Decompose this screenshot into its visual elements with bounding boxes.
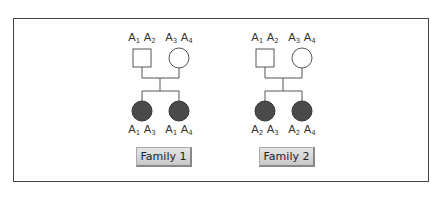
genotype-label: A2 A3 [251,123,279,137]
family-1-pedigree: A1 A2 A3 A4 A1 A3 A1 A4 Family 1 [129,19,239,183]
family-2-button[interactable]: Family 2 [259,147,315,167]
genotype-label: A2 A4 [288,123,316,137]
father-square-icon [256,49,274,67]
genotype-label: A3 A4 [288,31,316,45]
genotype-label: A3 A4 [165,31,193,45]
genotype-label: A1 A4 [165,123,193,137]
family-2-pedigree: A1 A2 A3 A4 A2 A3 A2 A4 Family 2 [252,19,362,183]
child-affected-icon [292,101,312,121]
genotype-label: A1 A2 [251,31,279,45]
diagram-frame: A1 A2 A3 A4 A1 A3 A1 A4 Family 1 A1 A2 A… [13,18,429,182]
father-square-icon [133,49,151,67]
family-1-button[interactable]: Family 1 [136,147,192,167]
child-affected-icon [255,101,275,121]
genotype-label: A1 A3 [128,123,156,137]
genotype-label: A1 A2 [128,31,156,45]
mother-circle-icon [292,48,312,68]
child-affected-icon [132,101,152,121]
mother-circle-icon [169,48,189,68]
child-affected-icon [169,101,189,121]
